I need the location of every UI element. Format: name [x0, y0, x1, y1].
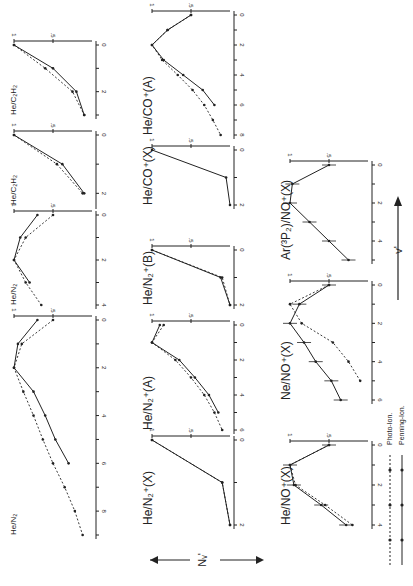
panel-title: He/CO⁺(A)	[141, 76, 155, 135]
panel-1: 1.5024He/N₂	[9, 202, 107, 309]
svg-text:0: 0	[101, 133, 107, 137]
svg-text:.5: .5	[50, 307, 56, 313]
panel-title: Ar(³P₂)/NO⁺(X)	[279, 180, 293, 260]
figure-canvas: 1.502468He/N₂1.5024He/N₂1.502He/C₂H₂1.50…	[0, 0, 413, 586]
svg-text:0: 0	[239, 438, 245, 442]
panel-title: Ne/NO⁺(X)	[279, 341, 293, 400]
svg-text:2: 2	[377, 322, 383, 326]
svg-text:.5: .5	[188, 237, 194, 243]
svg-text:.5: .5	[50, 202, 56, 208]
panel-title: He/CO⁺(X)	[141, 146, 155, 205]
svg-text:.5: .5	[326, 432, 332, 438]
svg-text:0: 0	[377, 283, 383, 287]
x-axis-label: v'	[392, 196, 404, 300]
svg-text:1: 1	[287, 273, 293, 277]
svg-text:2: 2	[101, 258, 107, 262]
svg-text:2: 2	[377, 201, 383, 205]
svg-text:4: 4	[239, 73, 245, 77]
svg-text:1: 1	[11, 123, 17, 127]
panel-5: 1.50246He/N₂⁺(A)	[141, 312, 245, 434]
panel-4: 1.502He/N₂⁺(X)	[141, 427, 245, 529]
svg-text:8: 8	[239, 133, 245, 137]
svg-text:6: 6	[239, 103, 245, 107]
svg-text:1: 1	[287, 153, 293, 157]
panel-title: He/N₂⁺(X)	[141, 471, 155, 525]
svg-text:1: 1	[149, 313, 155, 317]
panel-title: He/C₂H₂	[9, 85, 18, 115]
svg-text:0: 0	[377, 443, 383, 447]
panel-title: He/NO⁺(X)	[279, 466, 293, 525]
svg-text:0: 0	[101, 213, 107, 217]
svg-text:2: 2	[377, 483, 383, 487]
svg-text:6: 6	[101, 462, 107, 466]
svg-text:4: 4	[101, 414, 107, 418]
svg-text:2: 2	[239, 358, 245, 362]
svg-text:4: 4	[101, 303, 107, 307]
svg-text:1: 1	[11, 308, 17, 312]
svg-text:.5: .5	[50, 122, 56, 128]
panel-title: He/C₂H₂	[9, 175, 18, 205]
svg-text:4: 4	[239, 393, 245, 397]
panel-title: He/N₂	[9, 514, 18, 535]
y-axis-label: Nᵥ'	[150, 550, 264, 570]
svg-text:4: 4	[377, 360, 383, 364]
svg-text:0: 0	[239, 148, 245, 152]
panel-3: 1.502He/C₂H₂	[9, 32, 107, 119]
svg-text:0: 0	[377, 163, 383, 167]
panel-title: He/N₂⁺(A)	[141, 376, 155, 430]
svg-text:Photo-Ion.: Photo-Ion.	[386, 413, 393, 445]
svg-text:1: 1	[149, 138, 155, 142]
svg-text:1: 1	[11, 33, 17, 37]
panel-11: 1.5024Ar(³P₂)/NO⁺(X)	[279, 152, 383, 264]
svg-text:2: 2	[101, 192, 107, 196]
svg-text:4: 4	[377, 523, 383, 527]
svg-text:2: 2	[239, 303, 245, 307]
panel-10: 1.50246Ne/NO⁺(X)	[279, 272, 383, 404]
panel-6: 1.502He/N₂⁺(B)	[141, 237, 245, 309]
svg-text:0: 0	[239, 13, 245, 17]
panel-title: He/N₂⁺(B)	[141, 251, 155, 305]
svg-text:0: 0	[101, 43, 107, 47]
panel-9: 1.5024He/NO⁺(X)	[279, 432, 383, 529]
svg-text:2: 2	[101, 366, 107, 370]
svg-text:.5: .5	[188, 312, 194, 318]
svg-text:0: 0	[239, 323, 245, 327]
svg-text:1: 1	[149, 3, 155, 7]
svg-text:Nᵥ': Nᵥ'	[196, 553, 208, 567]
svg-text:.5: .5	[326, 272, 332, 278]
panel-7: 1.502He/CO⁺(X)	[141, 137, 245, 209]
panel-2: 1.502He/C₂H₂	[9, 122, 107, 209]
svg-text:.5: .5	[326, 152, 332, 158]
svg-text:2: 2	[239, 43, 245, 47]
svg-text:2: 2	[101, 90, 107, 94]
svg-text:8: 8	[101, 509, 107, 513]
svg-text:4: 4	[377, 239, 383, 243]
panel-title: He/N₂	[9, 284, 18, 305]
svg-text:v': v'	[392, 246, 404, 254]
figure: 1.502468He/N₂1.5024He/N₂1.502He/C₂H₂1.50…	[0, 0, 413, 586]
svg-text:0: 0	[239, 248, 245, 252]
svg-text:.5: .5	[188, 137, 194, 143]
svg-text:6: 6	[239, 428, 245, 432]
svg-text:.5: .5	[50, 32, 56, 38]
legend: Photo-Ion.Penning-Ion.	[386, 405, 406, 565]
svg-text:2: 2	[239, 203, 245, 207]
svg-text:.5: .5	[188, 427, 194, 433]
svg-text:1: 1	[149, 238, 155, 242]
svg-text:6: 6	[377, 398, 383, 402]
svg-text:0: 0	[101, 318, 107, 322]
svg-text:2: 2	[239, 523, 245, 527]
svg-text:Penning-Ion.: Penning-Ion.	[398, 405, 406, 445]
panel-0: 1.502468He/N₂	[9, 307, 107, 539]
svg-text:1: 1	[287, 433, 293, 437]
panel-8: 1.502468He/CO⁺(A)	[141, 2, 245, 139]
svg-text:.5: .5	[188, 2, 194, 8]
